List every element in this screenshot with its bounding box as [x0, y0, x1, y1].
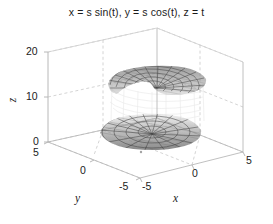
x-tick-neg5: -5 [142, 180, 151, 192]
matlab-figure: x = s sin(t), y = s cos(t), z = t [0, 0, 273, 224]
y-axis-label: y [75, 192, 80, 204]
axes-3d [0, 0, 273, 224]
x-axis-label: x [173, 192, 178, 204]
x-tick-0: 0 [192, 167, 198, 179]
axis-box-edges [48, 28, 243, 178]
helicoid-surface-mesh [96, 60, 216, 154]
y-tick-neg5: -5 [119, 180, 128, 192]
z-tick-10: 10 [26, 90, 38, 102]
z-axis-label: z [6, 98, 18, 102]
x-tick-5: 5 [246, 154, 252, 166]
z-tick-20: 20 [26, 45, 38, 57]
z-axis-line [44, 52, 48, 142]
y-tick-0: 0 [80, 164, 86, 176]
y-tick-5: 5 [33, 146, 39, 158]
